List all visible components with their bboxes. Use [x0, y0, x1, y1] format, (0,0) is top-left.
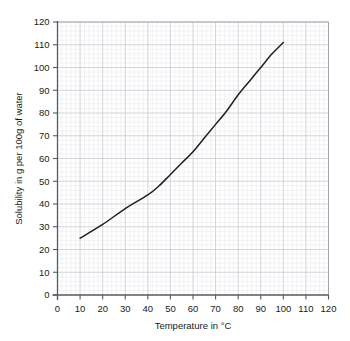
x-axis-tick-label: 20 [97, 303, 108, 314]
x-axis-tick-label: 60 [188, 303, 199, 314]
y-axis-title: Solubility in g per 100g of water [13, 92, 24, 225]
y-axis-tick-label: 70 [39, 130, 50, 141]
y-axis-tick-label: 110 [34, 39, 49, 50]
x-axis-tick-label: 90 [255, 303, 266, 314]
x-axis-tick-label: 80 [233, 303, 244, 314]
x-axis-tick-label: 30 [120, 303, 131, 314]
y-axis-tick-label: 50 [39, 176, 50, 187]
y-axis-tick-label: 20 [39, 244, 50, 255]
x-axis-tick-label: 120 [321, 303, 337, 314]
y-axis-tick-label: 40 [39, 198, 50, 209]
y-axis-tick-label: 90 [39, 85, 50, 96]
x-axis-tick-label: 100 [275, 303, 291, 314]
y-axis-tick-label: 0 [44, 289, 49, 300]
y-axis-tick-label: 60 [39, 153, 50, 164]
x-axis-tick-label: 40 [143, 303, 154, 314]
solubility-chart: 0102030405060708090100110120 01020304050… [0, 0, 350, 341]
x-axis-tick-label: 70 [210, 303, 221, 314]
y-axis-tick-label: 30 [39, 221, 50, 232]
y-axis-tick-label: 80 [39, 107, 50, 118]
y-axis-tick-label: 120 [34, 16, 50, 27]
x-axis-title: Temperature in °C [155, 320, 232, 331]
x-axis-tick-label: 0 [55, 303, 60, 314]
chart-canvas: 0102030405060708090100110120 01020304050… [0, 0, 350, 341]
x-axis-tick-label: 50 [165, 303, 176, 314]
y-axis-tick-label: 10 [39, 267, 50, 278]
x-axis-tick-label: 10 [75, 303, 86, 314]
y-axis-tick-label: 100 [34, 62, 50, 73]
x-axis-tick-label: 110 [298, 303, 313, 314]
